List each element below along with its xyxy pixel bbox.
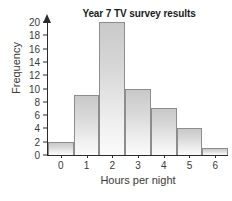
y-axis-tick-mark <box>43 48 47 49</box>
bar-series <box>48 0 228 155</box>
bar-6 <box>202 148 228 155</box>
y-axis-tick: 12 <box>24 70 47 81</box>
y-axis-tick-mark <box>43 141 47 142</box>
x-axis-tick-labels: 0123456 <box>48 157 228 173</box>
bar-chart: Year 7 TV survey results Frequency 02468… <box>0 0 232 201</box>
bar-slot <box>125 0 151 155</box>
bar-slot <box>177 0 203 155</box>
y-axis-tick-mark <box>43 128 47 129</box>
y-axis-tick-label: 16 <box>24 43 40 54</box>
y-axis-tick-label: 12 <box>24 70 40 81</box>
bar-slot <box>99 0 125 155</box>
y-axis-tick-label: 20 <box>24 17 40 28</box>
y-axis-tick-mark <box>43 115 47 116</box>
y-axis-tick-mark <box>43 101 47 102</box>
y-axis-tick-mark <box>43 35 47 36</box>
bar-5 <box>177 128 203 155</box>
y-axis-tick-label: 14 <box>24 56 40 67</box>
bar-4 <box>151 108 177 155</box>
y-axis-tick-mark <box>43 88 47 89</box>
y-axis-tick-mark <box>43 155 47 156</box>
x-axis-tick-label: 1 <box>74 157 100 173</box>
x-axis-tick-label: 0 <box>48 157 74 173</box>
y-axis-tick: 2 <box>24 136 47 147</box>
y-axis-tick-mark <box>43 61 47 62</box>
y-axis-tick-label: 10 <box>24 83 40 94</box>
y-axis-tick-label: 4 <box>24 123 40 134</box>
bar-slot <box>74 0 100 155</box>
y-axis-tick: 10 <box>24 83 47 94</box>
y-axis-tick-mark <box>43 75 47 76</box>
y-axis-tick: 14 <box>24 56 47 67</box>
y-axis-tick-label: 8 <box>24 96 40 107</box>
bar-1 <box>74 95 100 155</box>
y-axis-tick-label: 2 <box>24 136 40 147</box>
x-axis-label: Hours per night <box>48 174 228 186</box>
bar-slot <box>151 0 177 155</box>
y-axis-tick-label: 0 <box>24 150 40 161</box>
bar-0 <box>48 142 74 155</box>
y-axis-tick: 16 <box>24 43 47 54</box>
y-axis-tick: 8 <box>24 96 47 107</box>
x-axis-tick-label: 5 <box>177 157 203 173</box>
bar-slot <box>202 0 228 155</box>
y-axis-tick-label: 6 <box>24 110 40 121</box>
y-axis-tick-mark <box>43 22 47 23</box>
y-axis-label: Frequency <box>10 20 22 116</box>
y-axis-tick-label: 18 <box>24 30 40 41</box>
bar-slot <box>48 0 74 155</box>
x-axis-tick-label: 6 <box>202 157 228 173</box>
y-axis-tick: 18 <box>24 30 47 41</box>
x-axis-tick-label: 3 <box>125 157 151 173</box>
x-axis-tick-label: 2 <box>99 157 125 173</box>
y-axis-tick: 20 <box>24 17 47 28</box>
x-axis-tick-label: 4 <box>151 157 177 173</box>
y-axis-tick: 4 <box>24 123 47 134</box>
y-axis-tick: 6 <box>24 110 47 121</box>
y-axis-tick: 0 <box>24 150 47 161</box>
bar-3 <box>125 89 151 156</box>
bar-2 <box>99 22 125 155</box>
